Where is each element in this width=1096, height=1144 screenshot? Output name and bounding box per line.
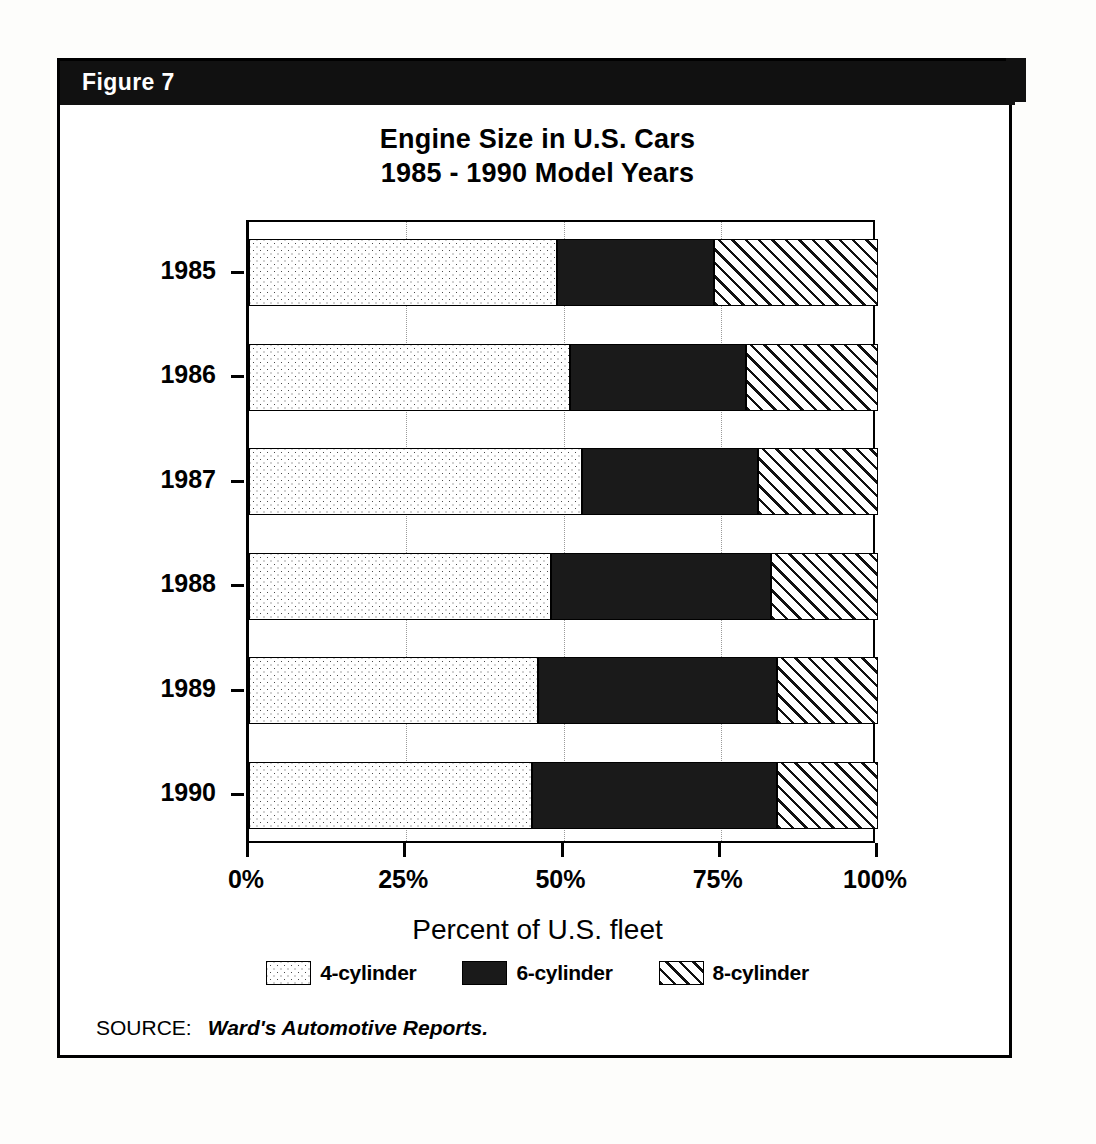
x-axis-tick-50%	[561, 843, 564, 857]
bar-segment-1986-6-cylinder	[570, 344, 746, 411]
plot-area	[246, 220, 875, 843]
source-text: Ward's Automotive Reports.	[208, 1016, 488, 1040]
legend-item-8-cylinder: 8-cylinder	[659, 961, 809, 985]
x-axis-tick-25%	[403, 843, 406, 857]
legend-swatch-8cyl	[659, 961, 704, 985]
figure-frame: Figure 7 Engine Size in U.S. Cars 1985 -…	[57, 58, 1012, 1058]
source-note: SOURCE: Ward's Automotive Reports.	[96, 1016, 488, 1040]
legend-label-4-cylinder: 4-cylinder	[320, 961, 416, 985]
bar-row-1990	[249, 762, 873, 829]
bar-segment-1987-8-cylinder	[758, 448, 878, 515]
legend-item-4-cylinder: 4-cylinder	[266, 961, 416, 985]
chart-subtitle: 1985 - 1990 Model Years	[60, 158, 1015, 189]
legend-label-6-cylinder: 6-cylinder	[516, 961, 612, 985]
legend-item-6-cylinder: 6-cylinder	[462, 961, 612, 985]
y-axis-tick-1988	[231, 584, 244, 587]
y-axis-label-1988: 1988	[106, 569, 216, 598]
bar-segment-1990-4-cylinder	[249, 762, 532, 829]
bar-segment-1989-6-cylinder	[538, 657, 777, 724]
y-axis-label-1985: 1985	[106, 256, 216, 285]
x-axis-title: Percent of U.S. fleet	[60, 914, 1015, 946]
bar-segment-1988-6-cylinder	[551, 553, 771, 620]
gridline-75	[721, 222, 722, 841]
bar-segment-1988-8-cylinder	[771, 553, 878, 620]
chart-legend: 4-cylinder6-cylinder8-cylinder	[60, 961, 1015, 985]
bar-row-1988	[249, 553, 873, 620]
x-axis-label-75%: 75%	[658, 865, 778, 894]
x-axis-label-100%: 100%	[815, 865, 935, 894]
gridline-25	[406, 222, 407, 841]
y-axis-tick-1990	[231, 793, 244, 796]
y-axis-tick-1985	[231, 271, 244, 274]
legend-swatch-4cyl	[266, 961, 311, 985]
y-axis-label-1987: 1987	[106, 465, 216, 494]
figure-number-label: Figure 7	[82, 69, 175, 96]
x-axis-tick-0%	[246, 843, 249, 857]
x-axis-tick-100%	[875, 843, 878, 857]
chart-title: Engine Size in U.S. Cars	[60, 124, 1015, 155]
figure-header-bar-extension	[1006, 58, 1026, 102]
bar-segment-1987-6-cylinder	[582, 448, 758, 515]
bar-segment-1989-8-cylinder	[777, 657, 878, 724]
figure-header-bar: Figure 7	[60, 61, 1015, 105]
bar-row-1986	[249, 344, 873, 411]
x-axis-label-50%: 50%	[501, 865, 621, 894]
x-axis-label-25%: 25%	[343, 865, 463, 894]
y-axis-label-1989: 1989	[106, 674, 216, 703]
bar-row-1985	[249, 239, 873, 306]
y-axis-label-1990: 1990	[106, 778, 216, 807]
bar-segment-1986-8-cylinder	[746, 344, 878, 411]
bar-segment-1990-8-cylinder	[777, 762, 878, 829]
y-axis-tick-1987	[231, 480, 244, 483]
bar-segment-1988-4-cylinder	[249, 553, 551, 620]
legend-label-8-cylinder: 8-cylinder	[713, 961, 809, 985]
bar-row-1987	[249, 448, 873, 515]
page-canvas: Figure 7 Engine Size in U.S. Cars 1985 -…	[0, 0, 1096, 1144]
bar-segment-1990-6-cylinder	[532, 762, 777, 829]
bar-row-1989	[249, 657, 873, 724]
bar-segment-1985-4-cylinder	[249, 239, 557, 306]
y-axis-tick-1986	[231, 375, 244, 378]
bar-segment-1985-6-cylinder	[557, 239, 714, 306]
x-axis-label-0%: 0%	[186, 865, 306, 894]
gridline-50	[564, 222, 565, 841]
bar-segment-1987-4-cylinder	[249, 448, 582, 515]
bar-segment-1989-4-cylinder	[249, 657, 538, 724]
y-axis-label-1986: 1986	[106, 360, 216, 389]
bar-segment-1986-4-cylinder	[249, 344, 570, 411]
y-axis-tick-1989	[231, 689, 244, 692]
source-label: SOURCE:	[96, 1016, 192, 1040]
x-axis-tick-75%	[718, 843, 721, 857]
bar-segment-1985-8-cylinder	[714, 239, 878, 306]
legend-swatch-6cyl	[462, 961, 507, 985]
